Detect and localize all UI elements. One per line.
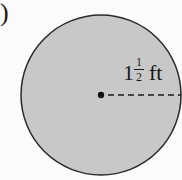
part-label: ) [0,0,9,28]
fraction-denominator: 2 [136,70,142,84]
circle-figure: ) 1 1 2 ft [0,0,182,180]
radius-unit: ft [149,60,162,86]
center-point [98,92,104,98]
radius-whole: 1 [123,60,134,86]
fraction-numerator: 1 [136,55,142,69]
circle-diagram [0,0,182,180]
radius-fraction: 1 2 [134,56,144,83]
